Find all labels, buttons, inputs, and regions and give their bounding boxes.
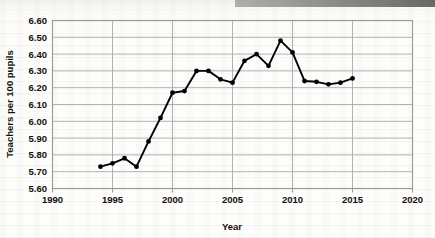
- x-tick-label: 2010: [282, 194, 303, 205]
- data-point-marker: [290, 50, 295, 55]
- data-point-marker: [146, 139, 151, 144]
- series-line-teachers-per-100-pupils: [101, 41, 353, 167]
- x-axis-title: Year: [222, 221, 242, 232]
- data-point-marker: [206, 69, 211, 74]
- y-tick-label: 6.10: [29, 99, 48, 110]
- line-chart: 5.605.705.805.906.006.106.206.306.406.50…: [0, 0, 435, 238]
- data-point-marker: [314, 79, 319, 84]
- y-tick-label: 6.20: [29, 82, 48, 93]
- y-tick-label: 5.80: [29, 149, 48, 160]
- y-tick-label: 6.00: [29, 116, 48, 127]
- data-point-marker: [158, 116, 163, 121]
- data-point-marker: [110, 161, 115, 166]
- y-tick-label: 6.50: [29, 32, 48, 43]
- data-point-marker: [230, 80, 235, 85]
- y-axis-title: Teachers per 100 pupils: [4, 50, 15, 158]
- data-point-marker: [254, 52, 259, 57]
- data-point-marker: [134, 164, 139, 169]
- data-point-marker: [266, 63, 271, 68]
- y-tick-label: 5.70: [29, 166, 48, 177]
- x-tick-label: 2020: [402, 194, 423, 205]
- x-tick-labels-group: 1990199520002005201020152020: [42, 194, 423, 205]
- data-point-marker: [218, 77, 223, 82]
- chart-canvas: 5.605.705.805.906.006.106.206.306.406.50…: [0, 0, 435, 238]
- data-point-marker: [182, 89, 187, 94]
- x-tick-label: 2015: [342, 194, 364, 205]
- data-point-marker: [350, 76, 355, 81]
- data-point-marker: [302, 79, 307, 84]
- y-tick-label: 5.60: [29, 183, 48, 194]
- x-tick-label: 1990: [42, 194, 63, 205]
- y-tick-label: 6.40: [29, 49, 48, 60]
- y-tick-label: 6.60: [29, 15, 48, 26]
- data-point-marker: [338, 80, 343, 85]
- x-tick-label: 2005: [222, 194, 244, 205]
- data-point-marker: [122, 156, 127, 161]
- y-tick-label: 6.30: [29, 65, 48, 76]
- series-markers-group: [98, 38, 355, 169]
- data-point-marker: [278, 38, 283, 43]
- data-point-marker: [326, 82, 331, 87]
- y-tick-labels-group: 5.605.705.805.906.006.106.206.306.406.50…: [29, 15, 48, 194]
- data-point-marker: [98, 164, 103, 169]
- data-point-marker: [194, 69, 199, 74]
- y-tick-label: 5.90: [29, 133, 48, 144]
- gridlines-group: [53, 21, 413, 189]
- x-tick-marks-group: [53, 189, 413, 193]
- x-tick-label: 1995: [102, 194, 124, 205]
- x-tick-label: 2000: [162, 194, 183, 205]
- data-point-marker: [170, 90, 175, 95]
- data-point-marker: [242, 58, 247, 63]
